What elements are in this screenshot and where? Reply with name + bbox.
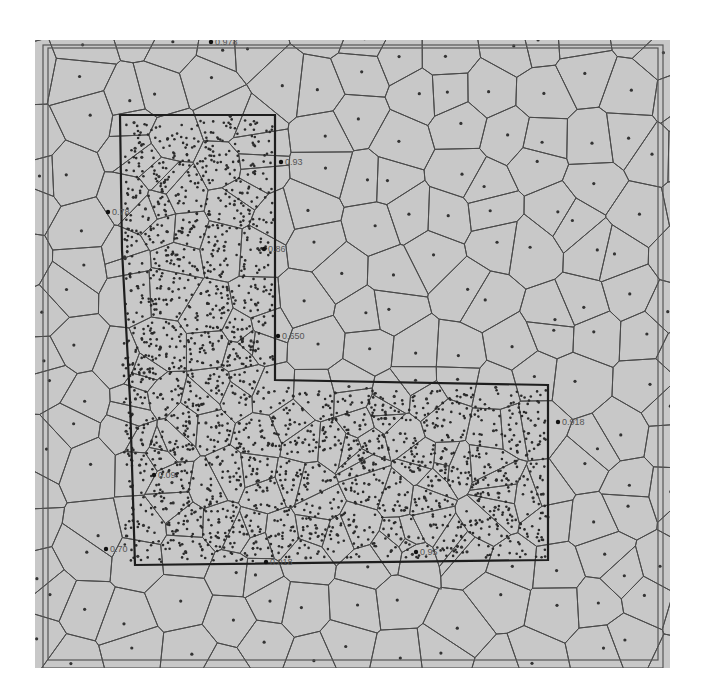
value-label: 0.93 bbox=[285, 157, 303, 167]
value-label: 0.70 bbox=[110, 544, 128, 554]
voronoi-diagram: 0.9780.930.780.860.6500.9180.090.700.018… bbox=[35, 40, 670, 668]
value-label: 0.95 bbox=[420, 547, 438, 557]
value-labels: 0.9780.930.780.860.6500.9180.090.700.018… bbox=[104, 40, 585, 567]
voronoi-edges bbox=[35, 40, 670, 668]
voronoi-canvas: 0.9780.930.780.860.6500.9180.090.700.018… bbox=[35, 40, 670, 668]
value-label: 0.018 bbox=[270, 557, 293, 567]
value-label: 0.09 bbox=[158, 470, 176, 480]
value-label: 0.978 bbox=[215, 40, 238, 47]
value-label: 0.86 bbox=[268, 244, 286, 254]
outer-frame bbox=[43, 45, 663, 668]
value-label: 0.650 bbox=[282, 331, 305, 341]
value-label: 0.918 bbox=[562, 417, 585, 427]
value-label: 0.78 bbox=[112, 207, 130, 217]
